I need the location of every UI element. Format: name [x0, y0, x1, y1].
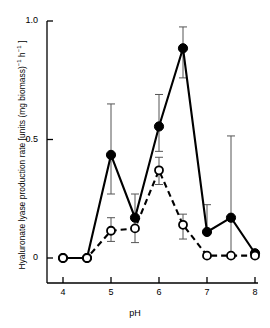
data-point-filled	[106, 150, 115, 159]
x-tick-label: 5	[91, 287, 131, 297]
data-point-filled	[178, 44, 187, 53]
error-bar	[227, 136, 235, 255]
error-bar	[107, 104, 115, 194]
x-tick-label: 6	[139, 287, 179, 297]
data-point-open	[107, 227, 115, 235]
data-point-open	[251, 252, 259, 260]
plot-area	[0, 0, 270, 328]
y-tick-label: 0	[0, 252, 38, 262]
y-tick-label: 0.5	[0, 134, 38, 144]
data-point-open	[83, 254, 91, 262]
data-point-filled	[202, 227, 211, 236]
x-tick-label: 4	[43, 287, 83, 297]
chart-figure: Hyaluronate lyase production rate [units…	[0, 0, 270, 328]
data-point-open	[131, 224, 139, 232]
x-tick-label: 7	[187, 287, 227, 297]
data-point-open	[203, 252, 211, 260]
series-line-filled-circles-solid	[63, 48, 255, 258]
data-point-filled	[154, 122, 163, 131]
y-tick-label: 1.0	[0, 15, 38, 25]
data-point-open	[179, 221, 187, 229]
data-point-open	[227, 252, 235, 260]
data-point-filled	[226, 213, 235, 222]
x-tick-label: 8	[235, 287, 270, 297]
data-point-open	[59, 254, 67, 262]
data-point-open	[155, 166, 163, 174]
